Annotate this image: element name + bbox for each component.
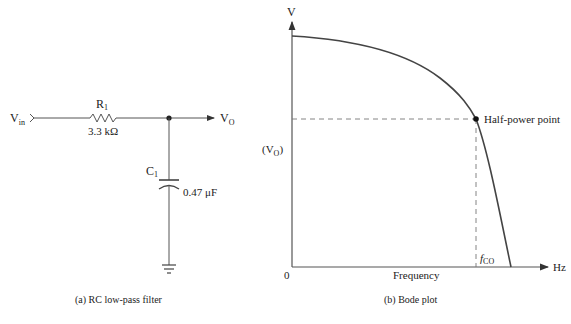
response-curve <box>292 36 511 267</box>
output-label: VO <box>220 111 235 127</box>
cutoff-frequency-label: fCO <box>480 252 494 266</box>
diagram-canvas: Vin R1 3.3 kΩ VO C1 0.47 μF (a) RC low-p… <box>0 0 571 324</box>
bode-plot: V Hz 0 Frequency Half-power point (VO) f… <box>262 5 566 306</box>
bode-caption: (b) Bode plot <box>384 294 438 306</box>
origin-label: 0 <box>284 269 290 281</box>
input-label: Vin <box>10 111 25 127</box>
capacitor-value: 0.47 μF <box>183 186 217 198</box>
resistor-icon <box>90 114 116 122</box>
resistor-value: 3.3 kΩ <box>88 125 118 137</box>
x-axis-label: Frequency <box>393 269 440 281</box>
resistor-name: R1 <box>96 97 108 112</box>
input-terminal-icon <box>30 114 34 122</box>
half-power-point-marker <box>473 116 479 122</box>
x-axis-unit: Hz <box>553 261 566 273</box>
circuit-caption: (a) RC low-pass filter <box>75 294 163 306</box>
capacitor-name: C1 <box>146 164 158 179</box>
half-power-point-label: Half-power point <box>484 113 560 125</box>
ground-icon <box>162 265 176 273</box>
rc-circuit: Vin R1 3.3 kΩ VO C1 0.47 μF (a) RC low-p… <box>10 97 235 306</box>
vo-level-label: (VO) <box>262 143 283 158</box>
y-axis-label: V <box>287 5 296 19</box>
